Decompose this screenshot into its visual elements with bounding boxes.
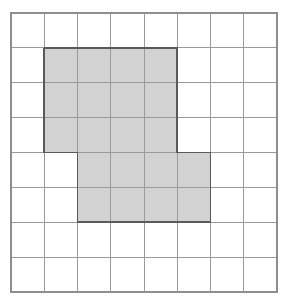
grid-figure-canvas <box>0 0 289 303</box>
shaded-cell <box>78 153 112 188</box>
shaded-cell <box>44 48 78 83</box>
shaded-cell <box>144 118 178 153</box>
shaded-cell <box>144 187 178 222</box>
shaded-cell <box>144 83 178 118</box>
shaded-cell <box>44 83 78 118</box>
shaded-cell <box>111 83 145 118</box>
shaded-cell <box>78 48 112 83</box>
shaded-cell <box>78 187 112 222</box>
shaded-cell <box>78 83 112 118</box>
shaded-cell <box>78 118 112 153</box>
shaded-cell <box>111 153 145 188</box>
shaded-cell <box>177 187 211 222</box>
grid-figure <box>0 0 289 303</box>
shaded-cell <box>144 153 178 188</box>
shaded-cell <box>44 118 78 153</box>
shaded-cell <box>177 153 211 188</box>
shaded-cell <box>111 48 145 83</box>
shaded-cell <box>111 187 145 222</box>
shaded-cell <box>111 118 145 153</box>
shaded-cell <box>144 48 178 83</box>
